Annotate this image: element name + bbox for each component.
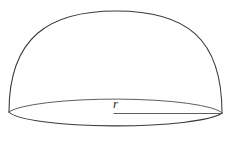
radius-label: r [113, 97, 118, 110]
base-ellipse-front-arc [9, 112, 222, 126]
hemisphere-figure: r [0, 0, 237, 141]
hemisphere-drawing [0, 0, 237, 141]
